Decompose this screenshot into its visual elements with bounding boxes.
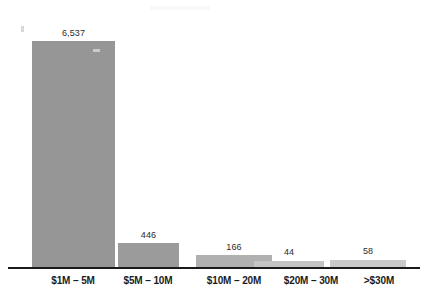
x-axis-line bbox=[8, 267, 420, 269]
bar[interactable] bbox=[118, 243, 179, 269]
x-axis-labels: $1M – 5M $5M – 10M $10M – 20M $20M – 30M… bbox=[0, 272, 426, 294]
bar-chart: 6,537 446 166 44 58 $1M – 5M $5M – 10M $… bbox=[0, 0, 426, 297]
scan-artifact bbox=[150, 6, 210, 10]
scan-artifact bbox=[21, 26, 24, 32]
x-axis-tick-label: >$30M bbox=[364, 275, 394, 286]
scan-artifact bbox=[93, 49, 100, 52]
bar-value-label: 6,537 bbox=[62, 28, 85, 38]
bar-group: 44 bbox=[254, 0, 324, 269]
bar-group: 6,537 bbox=[32, 0, 115, 269]
x-axis-tick-label: $20M – 30M bbox=[284, 275, 339, 286]
bar-group: 446 bbox=[118, 0, 179, 269]
x-axis-tick-label: $5M – 10M bbox=[123, 275, 172, 286]
x-axis-tick-label: $10M – 20M bbox=[207, 275, 262, 286]
bar-value-label: 44 bbox=[284, 247, 294, 257]
bar-value-label: 446 bbox=[141, 230, 156, 240]
x-axis-tick-label: $1M – 5M bbox=[51, 275, 95, 286]
bar-group: 58 bbox=[330, 0, 406, 269]
bar-value-label: 58 bbox=[363, 246, 373, 256]
plot-area: 6,537 446 166 44 58 bbox=[0, 0, 426, 269]
bar[interactable] bbox=[32, 41, 115, 269]
bar-value-label: 166 bbox=[226, 242, 241, 252]
